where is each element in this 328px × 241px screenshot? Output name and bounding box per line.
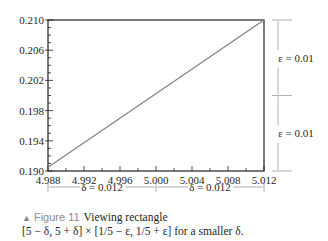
delta-left-label: δ = 0.012 bbox=[81, 181, 123, 193]
triangle-marker-icon: ▲ bbox=[22, 213, 31, 223]
figure-title: Viewing rectangle bbox=[84, 211, 168, 223]
chart: 0.1900.1940.1980.2020.2060.210 4.9884.99… bbox=[0, 0, 328, 205]
figure-label: Figure 11 bbox=[34, 211, 80, 223]
epsilon-top-label: ε = 0.01 bbox=[278, 52, 314, 64]
y-tick-label: 0.202 bbox=[19, 74, 44, 86]
delta-right-label: δ = 0.012 bbox=[189, 181, 231, 193]
y-tick-label: 0.210 bbox=[19, 14, 44, 26]
y-tick-label: 0.206 bbox=[19, 44, 44, 56]
figure-caption: ▲Figure 11Viewing rectangle bbox=[22, 210, 168, 225]
data-line bbox=[48, 20, 264, 167]
y-tick-label: 0.198 bbox=[19, 105, 44, 117]
y-tick-label: 0.194 bbox=[19, 135, 44, 147]
epsilon-annotation bbox=[272, 20, 292, 171]
epsilon-bottom-label: ε = 0.01 bbox=[278, 127, 314, 139]
figure-caption-line2: [5 − δ, 5 + δ] × [1/5 − ε, 1/5 + ε] for … bbox=[22, 225, 244, 237]
